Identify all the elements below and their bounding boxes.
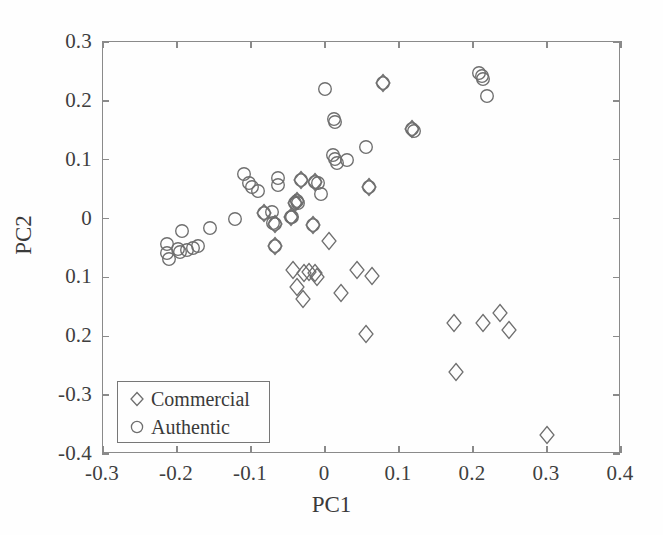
diamond-marker-icon [126, 391, 148, 407]
x-axis-tick [102, 446, 104, 453]
y-axis-tick-label: 0.2 [10, 87, 92, 112]
data-point-commercial [500, 321, 517, 340]
data-point-authentic [288, 192, 305, 209]
pca-scatter-figure: -0.3-0.2-0.100.10.20.30.40.30.20.100.10.… [0, 0, 663, 535]
circle-marker-icon [126, 419, 148, 435]
x-axis-tick-top [620, 41, 622, 48]
data-point-authentic [361, 178, 378, 195]
data-point-commercial [288, 191, 305, 210]
data-point-commercial [292, 170, 309, 189]
y-axis-tick-right [613, 159, 620, 161]
x-axis-tick [398, 446, 400, 453]
data-point-authentic [159, 236, 176, 253]
data-point-authentic [473, 67, 490, 84]
x-axis-tick-label: 0.4 [607, 461, 634, 486]
y-axis-title: PC2 [11, 165, 37, 305]
data-point-commercial [266, 236, 283, 255]
x-axis-tick-label: 0.2 [459, 461, 486, 486]
data-point-authentic [202, 219, 219, 236]
data-point-commercial [447, 362, 464, 381]
data-point-authentic [185, 240, 202, 257]
data-point-commercial [357, 324, 374, 343]
data-point-authentic [325, 110, 342, 127]
data-point-authentic [287, 194, 304, 211]
data-point-authentic [405, 122, 422, 139]
data-point-authentic [255, 205, 272, 222]
x-axis-tick-label: -0.2 [159, 461, 193, 486]
data-point-commercial [404, 120, 421, 139]
y-axis-tick-right [613, 218, 620, 220]
data-point-authentic [326, 114, 343, 131]
y-axis-tick-right [613, 336, 620, 338]
x-axis-tick-top [398, 41, 400, 48]
y-axis-tick-label: -0.4 [10, 441, 92, 466]
data-point-authentic [305, 217, 322, 234]
data-point-authentic [282, 208, 299, 225]
data-point-commercial [267, 214, 284, 233]
data-point-authentic [328, 154, 345, 171]
data-point-commercial [363, 267, 380, 286]
x-axis-tick-top [176, 41, 178, 48]
data-point-commercial [282, 207, 299, 226]
data-point-commercial [294, 290, 311, 309]
data-point-authentic [189, 237, 206, 254]
legend-item-authentic: Authentic [126, 413, 269, 441]
data-point-authentic [325, 147, 342, 164]
data-point-authentic [160, 250, 177, 267]
data-point-authentic [290, 195, 307, 212]
data-point-authentic [470, 65, 487, 82]
y-axis-tick [102, 336, 109, 338]
data-point-authentic [266, 237, 283, 254]
x-axis-tick [250, 446, 252, 453]
data-point-authentic [265, 214, 282, 231]
data-point-commercial [492, 303, 509, 322]
legend-item-commercial: Commercial [126, 385, 269, 413]
y-axis-tick [102, 100, 109, 102]
x-axis-tick-label: 0.1 [385, 461, 412, 486]
data-point-commercial [333, 284, 350, 303]
data-point-commercial [445, 313, 462, 332]
data-point-commercial [307, 173, 324, 192]
data-point-commercial [305, 216, 322, 235]
data-point-authentic [404, 121, 421, 138]
data-point-authentic [375, 75, 392, 92]
data-point-authentic [169, 241, 186, 258]
x-axis-tick [546, 446, 548, 453]
x-axis-tick-top [546, 41, 548, 48]
data-point-authentic [240, 174, 257, 191]
y-axis-tick-right [613, 41, 620, 43]
x-axis-tick-top [324, 41, 326, 48]
x-axis-title: PC1 [0, 492, 663, 518]
y-axis-tick [102, 394, 109, 396]
data-point-commercial [306, 263, 323, 282]
y-axis-tick-label: 0.2 [10, 323, 92, 348]
data-point-commercial [287, 193, 304, 212]
y-axis-tick-label: 0.3 [10, 29, 92, 54]
data-point-authentic [226, 211, 243, 228]
data-point-authentic [179, 241, 196, 258]
legend-label-authentic: Authentic [151, 416, 230, 439]
y-axis-tick [102, 41, 109, 43]
x-axis-tick-label: 0.3 [533, 461, 560, 486]
data-point-authentic [475, 71, 492, 88]
data-point-authentic [292, 171, 309, 188]
x-axis-tick [176, 446, 178, 453]
data-point-authentic [326, 151, 343, 168]
data-point-commercial [300, 263, 317, 282]
y-axis-tick-right [613, 453, 620, 455]
data-point-authentic [159, 244, 176, 261]
y-axis-tick [102, 453, 109, 455]
y-axis-tick [102, 159, 109, 161]
x-axis-tick [324, 446, 326, 453]
data-point-commercial [308, 268, 325, 287]
data-point-authentic [357, 138, 374, 155]
data-point-authentic [339, 152, 356, 169]
data-point-authentic [269, 169, 286, 186]
x-axis-tick-label: -0.1 [233, 461, 267, 486]
data-point-authentic [249, 183, 266, 200]
data-point-commercial [295, 263, 312, 282]
data-point-commercial [361, 177, 378, 196]
data-point-commercial [375, 74, 392, 93]
data-point-authentic [313, 186, 330, 203]
data-point-authentic [236, 165, 253, 182]
